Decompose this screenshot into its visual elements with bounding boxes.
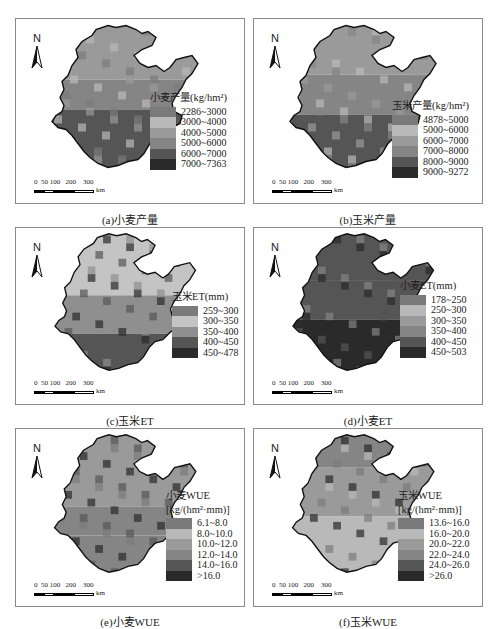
legend-swatch	[166, 550, 192, 561]
legend: 小麦产量(kg/hm²) 2286~30003000~40004000~5000…	[150, 93, 227, 170]
legend-item: 14.0~16.0	[166, 560, 237, 571]
legend-item: 250~300	[400, 305, 466, 316]
legend-label: 14.0~16.0	[197, 560, 237, 571]
legend: 玉米产量(kg/hm²) 4878~50005000~60006000~7000…	[392, 101, 469, 178]
north-arrow: N	[268, 443, 282, 480]
legend-item: 6.1~8.0	[166, 518, 237, 529]
caption-d: (d)小麦ET	[253, 412, 483, 428]
legend-swatch	[150, 117, 176, 128]
legend-swatch	[172, 337, 198, 348]
north-arrow-icon	[269, 255, 281, 279]
map-panel-b: N 0 50 100 200 300 km 玉米产量(kg/hm²) 4878~…	[253, 18, 483, 204]
legend-unit: [kg/(hm²·mm)]	[398, 505, 469, 516]
legend-swatch	[166, 518, 192, 529]
legend-swatch	[398, 539, 424, 550]
legend-title: 小麦产量(kg/hm²)	[150, 93, 227, 104]
caption-a: (a)小麦产量	[15, 211, 245, 227]
legend-swatch	[392, 136, 418, 147]
legend-title: 小麦ET(mm)	[400, 281, 466, 292]
scale-unit: km	[96, 388, 105, 394]
north-label: N	[271, 32, 279, 44]
legend-item: 10.0~12.0	[166, 539, 237, 550]
legend-label: 5000~6000	[181, 138, 226, 149]
legend-label: 450~503	[431, 347, 466, 358]
legend-label: 13.6~16.0	[429, 518, 469, 529]
legend-item: 300~350	[172, 316, 238, 327]
legend-swatch	[398, 550, 424, 561]
scale-ticks: 0 50 100 200 300	[34, 582, 105, 589]
legend-label: 400~450	[203, 337, 238, 348]
legend-swatch	[172, 316, 198, 327]
legend: 玉米ET(mm) 259~300300~350350~400400~450450…	[172, 292, 238, 358]
legend-label: 20.0~22.0	[429, 539, 469, 550]
legend-title: 玉米产量(kg/hm²)	[392, 101, 469, 112]
scale-bar: 0 50 100 200 300 km	[34, 380, 105, 394]
legend-swatch	[150, 159, 176, 170]
legend-item: 20.0~22.0	[398, 539, 469, 550]
legend-swatch	[150, 128, 176, 139]
caption-c: (c)玉米ET	[15, 412, 245, 428]
scale-unit: km	[334, 388, 343, 394]
legend: 小麦WUE [kg/(hm²·mm)] 6.1~8.08.0~10.010.0~…	[166, 491, 237, 581]
legend-item: 13.6~16.0	[398, 518, 469, 529]
north-arrow: N	[30, 443, 44, 480]
legend-label: 300~350	[203, 316, 238, 327]
scale-unit: km	[334, 187, 343, 193]
north-arrow-icon	[269, 456, 281, 480]
legend-title: 玉米ET(mm)	[172, 292, 238, 303]
scale-ticks: 0 50 100 200 300	[272, 582, 343, 589]
legend-item: 450~503	[400, 347, 466, 358]
legend-label: >16.0	[197, 571, 220, 582]
legend-swatch	[172, 306, 198, 317]
scale-bar: 0 50 100 200 300 km	[272, 179, 343, 193]
scale-bar: 0 50 100 200 300 km	[272, 380, 343, 394]
legend-swatch	[172, 348, 198, 359]
scale-ticks: 0 50 100 200 300	[34, 179, 105, 186]
scale-unit: km	[334, 590, 343, 596]
scale-ticks: 0 50 100 200 300	[34, 380, 105, 387]
scale-unit: km	[96, 590, 105, 596]
legend: 小麦ET(mm) 178~250250~300300~350350~400400…	[400, 281, 466, 358]
legend-label: 450~478	[203, 348, 238, 359]
legend-label: >26.0	[429, 571, 452, 582]
north-arrow: N	[30, 33, 44, 70]
legend-label: 6.1~8.0	[197, 518, 227, 529]
caption-b: (b)玉米产量	[253, 211, 483, 227]
legend-label: 350~400	[431, 326, 466, 337]
legend-item: 24.0~26.0	[398, 560, 469, 571]
legend-swatch	[166, 529, 192, 540]
caption-f: (f)玉米WUE	[253, 613, 483, 629]
caption-e: (e)小麦WUE	[15, 613, 245, 629]
legend-swatch	[166, 560, 192, 571]
legend-item: 9000~9272	[392, 167, 469, 178]
legend-swatch	[392, 115, 418, 126]
scale-ticks: 0 50 100 200 300	[272, 380, 343, 387]
legend-item: 7000~7363	[150, 159, 227, 170]
legend-title: 小麦WUE	[166, 491, 237, 502]
scale-unit: km	[96, 187, 105, 193]
map-panel-e: N 0 50 100 200 300 km 小麦WUE [kg/(hm²·mm)…	[15, 428, 245, 607]
legend-swatch	[150, 138, 176, 149]
north-arrow-icon	[269, 46, 281, 70]
legend-swatch	[392, 157, 418, 168]
legend-label: 9000~9272	[423, 167, 468, 178]
legend-swatch	[400, 347, 426, 358]
map-panel-f: N 0 50 100 200 300 km 玉米WUE [kg/(hm²·mm)…	[253, 428, 483, 607]
legend-swatch	[392, 167, 418, 178]
legend-item: >26.0	[398, 571, 469, 582]
legend-item: 5000~6000	[392, 125, 469, 136]
legend-swatch	[400, 337, 426, 348]
legend-item: 400~450	[172, 337, 238, 348]
legend-swatch	[150, 149, 176, 160]
map-panel-d: N 0 50 100 200 300 km 小麦ET(mm) 178~25025…	[253, 227, 483, 405]
north-arrow: N	[30, 242, 44, 279]
legend-item: 5000~6000	[150, 138, 227, 149]
legend-label: 250~300	[431, 305, 466, 316]
legend-label: 7000~7363	[181, 159, 226, 170]
legend-swatch	[172, 327, 198, 338]
map-panel-c: N 0 50 100 200 300 km 玉米ET(mm) 259~30030…	[15, 227, 245, 405]
legend-label: 10.0~12.0	[197, 539, 237, 550]
legend-title: 玉米WUE	[398, 491, 469, 502]
legend-item: 7000~8000	[392, 146, 469, 157]
legend-item: 450~478	[172, 348, 238, 359]
